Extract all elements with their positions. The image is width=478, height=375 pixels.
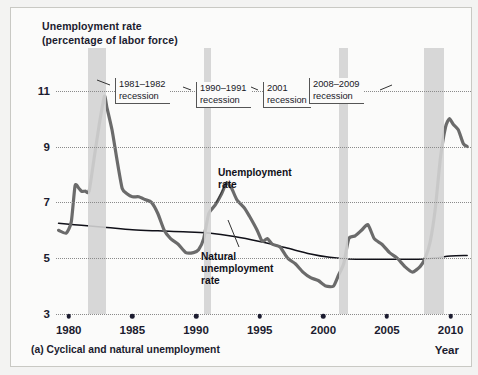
x-axis-tick-dot (130, 314, 135, 319)
callout-1990-1991-recession: 1990–1991 recession (196, 82, 251, 108)
x-axis-title: Year (435, 344, 459, 356)
chart-panel: Unemployment rate (percentage of labor f… (10, 7, 472, 367)
x-axis-tick-label: 2010 (438, 324, 464, 336)
x-axis-tick-dot (194, 314, 199, 319)
callout-1981-1982-recession: 1981–1982 recession (115, 78, 170, 104)
x-axis-tick-dot (448, 314, 453, 319)
x-axis-tick-label: 1990 (183, 324, 209, 336)
x-axis-tick-label: 1985 (120, 324, 146, 336)
figure-container: Unemployment rate (percentage of labor f… (0, 0, 478, 375)
x-axis-tick-label: 2000 (311, 324, 337, 336)
y-axis-title: Unemployment rate (percentage of labor f… (42, 20, 178, 47)
annotation-unemployment-rate: Unemployment rate (218, 167, 292, 191)
x-axis-tick-label: 1980 (56, 324, 82, 336)
annotation-natural-rate: Natural unemployment rate (201, 251, 273, 287)
x-axis-tick-dot (66, 314, 71, 319)
x-axis-tick-dot (385, 314, 390, 319)
x-axis-tick-label: 2005 (374, 324, 400, 336)
x-axis-tick-label: 1995 (247, 324, 273, 336)
y-axis-tick-label: 9 (44, 141, 50, 153)
gridline (56, 314, 471, 315)
y-axis-tick-label: 11 (38, 85, 50, 97)
y-axis-tick-label: 5 (44, 252, 50, 264)
gridline (56, 202, 471, 203)
y-axis-tick-label: 7 (44, 196, 50, 208)
y-axis-tick-label: 3 (44, 308, 50, 320)
callout-2008-2009-recession: 2008–2009 recession (309, 78, 364, 104)
recession-band (88, 48, 106, 314)
recession-band (424, 48, 444, 314)
figure-caption: (a) Cyclical and natural unemployment (31, 344, 220, 355)
x-axis-tick-dot (321, 314, 326, 319)
x-axis-tick-dot (257, 314, 262, 319)
gridline (56, 147, 471, 148)
callout-2001-recession: 2001 recession (263, 82, 311, 108)
